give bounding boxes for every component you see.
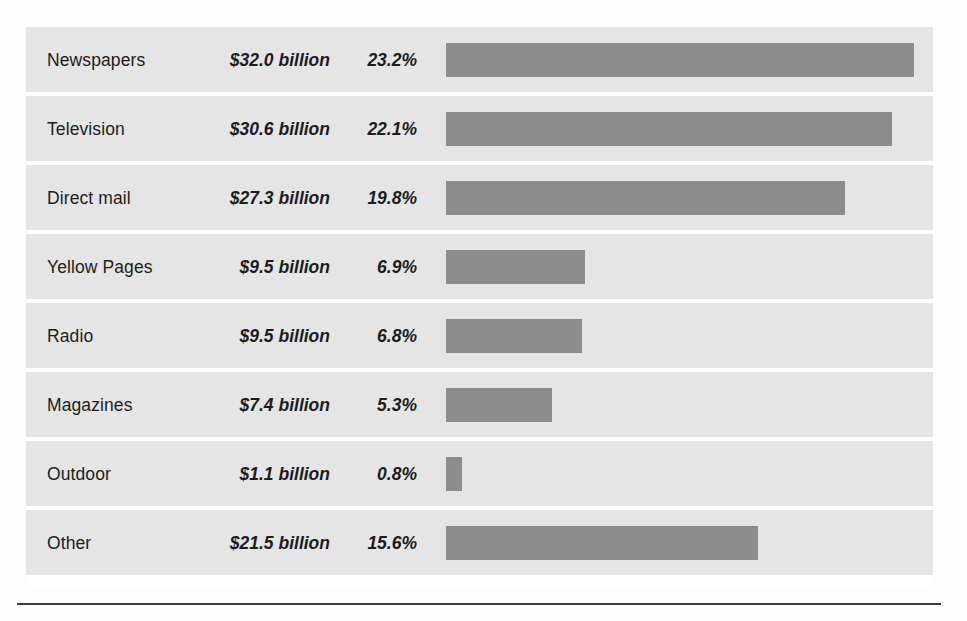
row-amount-value: $21.5 billion	[176, 532, 330, 553]
bar-track	[446, 441, 914, 506]
row-category-label: Magazines	[47, 394, 133, 415]
row-percent-value: 5.3%	[336, 394, 417, 415]
row-amount-value: $9.5 billion	[176, 325, 330, 346]
row-percent-value: 6.9%	[336, 256, 417, 277]
chart-row: Other$21.5 billion15.6%	[26, 510, 933, 575]
row-percent-value: 6.8%	[336, 325, 417, 346]
row-category-label: Direct mail	[47, 187, 131, 208]
bar	[446, 457, 462, 491]
row-category-label: Outdoor	[47, 463, 111, 484]
row-category-label: Newspapers	[47, 49, 145, 70]
chart-row: Television$30.6 billion22.1%	[26, 96, 933, 161]
row-percent-value: 15.6%	[336, 532, 417, 553]
row-amount-value: $9.5 billion	[176, 256, 330, 277]
bar-track	[446, 96, 914, 161]
bar-track	[446, 372, 914, 437]
bottom-divider-rule	[17, 603, 941, 605]
bar-track	[446, 510, 914, 575]
row-category-label: Other	[47, 532, 91, 553]
bar	[446, 181, 845, 215]
bar-track	[446, 165, 914, 230]
bar	[446, 388, 552, 422]
row-percent-value: 22.1%	[336, 118, 417, 139]
bar	[446, 526, 758, 560]
chart-row: Outdoor$1.1 billion0.8%	[26, 441, 933, 506]
row-amount-value: $30.6 billion	[176, 118, 330, 139]
bar	[446, 43, 914, 77]
chart-row: Yellow Pages$9.5 billion6.9%	[26, 234, 933, 299]
bar	[446, 112, 892, 146]
bar	[446, 319, 582, 353]
row-category-label: Television	[47, 118, 125, 139]
chart-row: Newspapers$32.0 billion23.2%	[26, 27, 933, 92]
chart-row: Radio$9.5 billion6.8%	[26, 303, 933, 368]
row-amount-value: $32.0 billion	[176, 49, 330, 70]
bar-chart-panel: Newspapers$32.0 billion23.2%Television$3…	[26, 27, 933, 588]
bar-track	[446, 303, 914, 368]
chart-row: Direct mail$27.3 billion19.8%	[26, 165, 933, 230]
row-category-label: Yellow Pages	[47, 256, 153, 277]
bar	[446, 250, 585, 284]
bar-track	[446, 27, 914, 92]
row-percent-value: 0.8%	[336, 463, 417, 484]
row-amount-value: $1.1 billion	[176, 463, 330, 484]
bar-track	[446, 234, 914, 299]
chart-row: Magazines$7.4 billion5.3%	[26, 372, 933, 437]
row-category-label: Radio	[47, 325, 93, 346]
row-amount-value: $27.3 billion	[176, 187, 330, 208]
row-amount-value: $7.4 billion	[176, 394, 330, 415]
row-percent-value: 19.8%	[336, 187, 417, 208]
row-percent-value: 23.2%	[336, 49, 417, 70]
